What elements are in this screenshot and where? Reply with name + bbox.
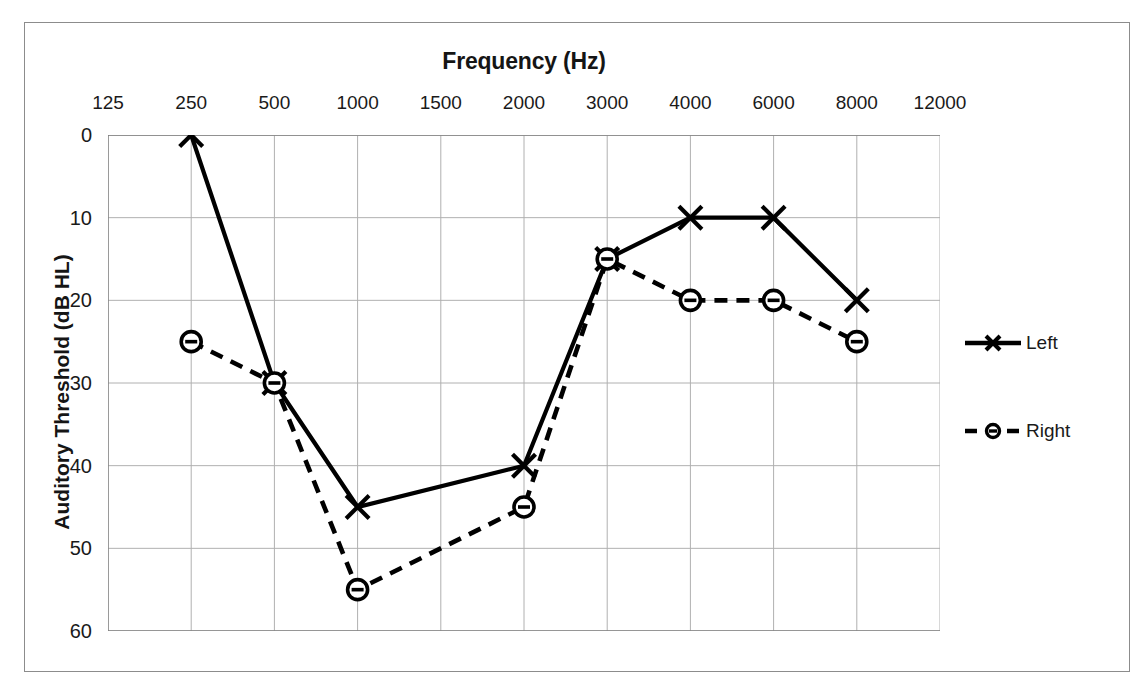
legend-swatch-circle-dot xyxy=(964,421,1022,441)
y-axis-tick-label: 20 xyxy=(46,289,92,312)
chart-title: Frequency (Hz) xyxy=(108,48,940,75)
y-axis-tick-label: 10 xyxy=(46,206,92,229)
y-axis-tick-label: 60 xyxy=(46,620,92,643)
data-point-marker[interactable] xyxy=(597,249,617,269)
data-point-marker[interactable] xyxy=(764,290,784,310)
y-axis-tick-label: 50 xyxy=(46,537,92,560)
x-axis-tick-label: 1000 xyxy=(336,92,378,114)
x-axis-tick-label: 1500 xyxy=(420,92,462,114)
data-point-marker[interactable] xyxy=(181,332,201,352)
chart-legend: LeftRight xyxy=(964,330,1114,506)
x-axis-tick-label: 125 xyxy=(92,92,124,114)
x-axis-tick-label: 6000 xyxy=(752,92,794,114)
x-axis-tick-label: 2000 xyxy=(503,92,545,114)
data-point-marker[interactable] xyxy=(264,373,284,393)
x-axis-tick-label: 3000 xyxy=(586,92,628,114)
y-axis-tick-label: 30 xyxy=(46,372,92,395)
plot-area xyxy=(108,135,940,631)
data-point-marker[interactable] xyxy=(680,290,700,310)
x-axis-tick-label: 12000 xyxy=(914,92,967,114)
y-axis-tick-label: 40 xyxy=(46,454,92,477)
x-axis-tick-label: 250 xyxy=(175,92,207,114)
legend-label: Left xyxy=(1026,332,1058,354)
y-axis-tick-label: 0 xyxy=(46,124,92,147)
legend-item-right[interactable]: Right xyxy=(964,418,1114,444)
data-point-marker[interactable] xyxy=(514,497,534,517)
legend-label: Right xyxy=(1026,420,1070,442)
legend-swatch-x xyxy=(964,333,1022,353)
x-axis-tick-label: 4000 xyxy=(669,92,711,114)
x-axis-tick-label: 500 xyxy=(259,92,291,114)
data-point-marker[interactable] xyxy=(348,580,368,600)
plot-canvas xyxy=(108,135,940,631)
legend-item-left[interactable]: Left xyxy=(964,330,1114,356)
data-point-marker[interactable] xyxy=(847,332,867,352)
audiogram-figure: Frequency (Hz) Auditory Threshold (dB HL… xyxy=(0,0,1143,691)
x-axis-tick-label: 8000 xyxy=(836,92,878,114)
